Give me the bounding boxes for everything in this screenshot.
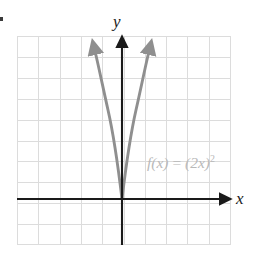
x-axis-label: x [236, 190, 244, 207]
axes [17, 46, 221, 245]
y-axis-label: y [113, 13, 121, 30]
parabola-right-branch [122, 52, 149, 199]
graph-figure: y x f(x) = (2x)2 [0, 0, 262, 255]
function-equation-label: f(x) = (2x)2 [147, 155, 215, 171]
coordinate-plane [0, 0, 262, 255]
page-edge-mark [0, 17, 3, 21]
function-label-exponent: 2 [210, 153, 215, 164]
function-label-equals: = [172, 154, 181, 171]
function-label-rhs-base: (2x) [185, 154, 210, 171]
function-label-lhs: f(x) [147, 154, 169, 171]
parabola-left-branch [95, 52, 122, 199]
grid-lines [17, 36, 231, 245]
